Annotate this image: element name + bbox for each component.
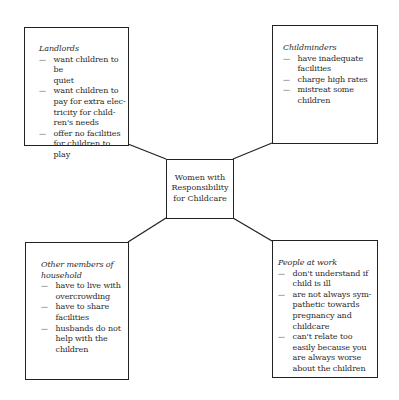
item-list: have inadequatefacilities charge high ra… xyxy=(283,54,375,107)
list-item: want children to bequiet xyxy=(39,55,129,87)
list-item: have to sharefacilities xyxy=(41,302,129,323)
list-item: husbands do nothelp with thechildren xyxy=(41,324,129,356)
list-item: can't relate tooeasily because youare al… xyxy=(278,332,378,374)
box-title: Other members ofhousehold xyxy=(41,260,129,281)
item-list: want children to bequiet want children t… xyxy=(39,55,129,161)
connector-household xyxy=(128,218,166,242)
list-item: charge high rates xyxy=(283,75,375,86)
box-title: Childminders xyxy=(283,43,375,54)
list-item: want children topay for extra elec-trici… xyxy=(39,86,129,128)
center-line: Women with xyxy=(175,173,225,182)
box-title: People at work xyxy=(278,258,378,269)
box-work: People at work don't understand ifchild … xyxy=(272,240,378,378)
list-item: have inadequatefacilities xyxy=(283,54,375,75)
list-item: are not always sym-pathetic towardspregn… xyxy=(278,290,378,332)
center-line: Responsibility xyxy=(171,183,228,192)
center-line: for Childcare xyxy=(173,194,226,203)
list-item: offer no facilitiesfor children to play xyxy=(39,129,129,161)
connector-landlords xyxy=(128,144,166,159)
list-item: mistreat somechildren xyxy=(283,85,375,106)
box-center: Women with Responsibility for Childcare xyxy=(166,159,234,219)
connector-work xyxy=(233,218,272,241)
list-item: don't understand ifchild is ill xyxy=(278,269,378,290)
box-childminders: Childminders have inadequatefacilities c… xyxy=(272,25,378,144)
item-list: don't understand ifchild is ill are not … xyxy=(278,269,378,375)
list-item: have to live withovercrowding xyxy=(41,281,129,302)
box-landlords: Landlords want children to bequiet want … xyxy=(24,27,129,146)
box-title: Landlords xyxy=(39,44,129,55)
connector-childminders xyxy=(233,143,272,159)
box-household: Other members ofhousehold have to live w… xyxy=(25,242,129,380)
item-list: have to live withovercrowding have to sh… xyxy=(41,281,129,355)
